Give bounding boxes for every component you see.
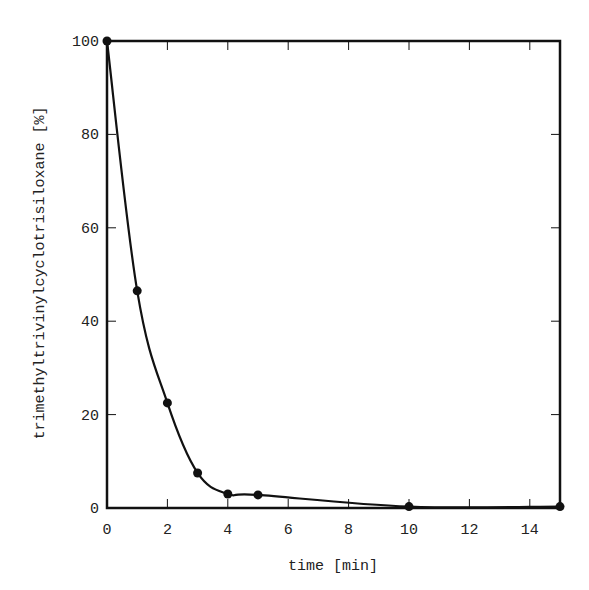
- y-axis-ticks: 020406080100: [72, 34, 560, 518]
- y-tick-label: 40: [81, 314, 99, 331]
- data-series: [103, 37, 565, 512]
- y-tick-label: 100: [72, 34, 99, 51]
- x-axis-label: time [min]: [288, 558, 378, 575]
- x-tick-label: 4: [223, 522, 232, 539]
- data-point-marker: [103, 37, 112, 46]
- x-axis-ticks: 02468101214: [102, 41, 538, 539]
- y-tick-label: 60: [81, 221, 99, 238]
- x-tick-label: 6: [284, 522, 293, 539]
- y-tick-label: 20: [81, 408, 99, 425]
- x-tick-label: 12: [460, 522, 478, 539]
- series-line: [107, 41, 560, 508]
- data-point-marker: [556, 502, 565, 511]
- x-tick-label: 0: [102, 522, 111, 539]
- data-point-marker: [193, 468, 202, 477]
- data-point-marker: [223, 489, 232, 498]
- data-point-marker: [254, 490, 263, 499]
- y-tick-label: 80: [81, 127, 99, 144]
- x-tick-label: 8: [344, 522, 353, 539]
- x-tick-label: 14: [521, 522, 539, 539]
- plot-frame: [107, 41, 560, 508]
- plot-border: [107, 41, 560, 508]
- data-point-marker: [405, 502, 414, 511]
- x-tick-label: 10: [400, 522, 418, 539]
- data-point-marker: [133, 286, 142, 295]
- line-chart: 02468101214 020406080100 time [min] trim…: [0, 0, 589, 590]
- y-axis-label: trimethyltrivinylcyclotrisiloxane [%]: [32, 106, 49, 439]
- x-tick-label: 2: [163, 522, 172, 539]
- data-point-marker: [163, 398, 172, 407]
- y-tick-label: 0: [90, 501, 99, 518]
